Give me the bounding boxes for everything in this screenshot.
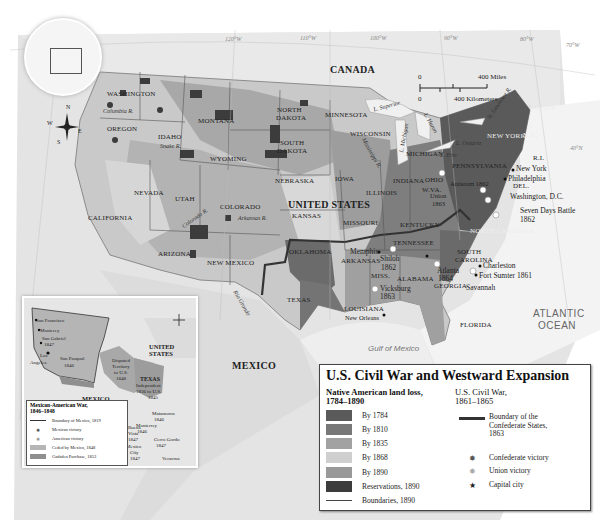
scale-miles-label: 400 Miles [478,74,506,81]
state-label: ARKANSAS [341,258,380,265]
inset-region-label: Independent [136,383,161,388]
color-swatch [326,452,352,463]
color-swatch [326,481,352,492]
state-label: NORTH [277,107,302,114]
city-label: New York [516,165,546,173]
city-label: 1863 [432,201,445,208]
globe-locator [24,18,102,96]
scale-miles-zero: 0 [418,74,422,81]
state-label: WYOMING [210,156,247,163]
legend-title: U.S. Civil War and Westward Expansion [326,368,569,384]
civil-war-heading: U.S. Civil War, 1861–1865 [455,388,507,406]
legend-item-confederate-victory: ✸ Confederate victory [455,454,549,463]
inset-city-label: Veracruz [162,456,180,461]
city-label: Shiloh [380,255,400,263]
inset-region-label: 1845 [148,395,158,400]
inset-city-label: 1846 [64,363,74,368]
city-label: Philadelphia [508,175,546,183]
compass-e: E [78,128,82,134]
city-label: Washington, D.C. [510,193,564,201]
inset-map-mexican-american-war: San Francisco Monterey San Gabriel 1847 … [22,296,198,468]
state-label: KENTUCKY [400,222,440,229]
country-label-mexico: MEXICO [232,361,276,371]
state-label: ALABAMA [397,276,434,283]
legend-label: Capital city [489,481,524,490]
legend-item-capital-city: ★ Capital city [455,481,524,490]
inset-legend: Mexican-American War, 1846–1848 Boundary… [26,400,128,466]
state-label: OKLAHOMA [289,249,331,256]
graticule-label: 40°N [570,145,582,151]
river-label: Arkansas R. [238,215,267,221]
inset-city-label: Mexico [126,444,141,449]
city-label: 1864 [438,275,453,283]
city-label: 1862 [381,264,396,272]
legend-item-land-loss: By 1868 [326,452,388,464]
boundary-line-icon [30,420,46,421]
inset-legend-label: Mexican victory [52,427,82,432]
state-label: UTAH [175,196,195,203]
inset-city-label: San Francisco [36,318,64,323]
state-label: NEW MEXICO [207,260,254,267]
inset-city-label: San Pasqual [60,356,84,361]
city-label: New Orleans [345,315,379,322]
compass-n: N [66,104,70,110]
american-victory-icon: ✸ [30,436,46,441]
legend-item-land-loss: Reservations, 1890 [326,481,420,493]
compass-s: S [57,139,60,145]
legend-item-confederate-boundary: Boundary of the Confederate States, 1863 [455,413,547,439]
graticule-label: 70°W [566,42,579,48]
legend-item-union-victory: ✸ Union victory [455,467,531,476]
inset-region-label: 1848 [116,376,126,381]
mexican-victory-icon: ✸ [30,427,46,432]
legend-item-land-loss: By 1784 [326,409,388,421]
state-label: LOUISIANA [344,306,384,313]
state-label: TENNESSEE [393,240,434,247]
inset-region-label: TEXAS [140,376,160,382]
graticule-label: 120°W [225,36,241,42]
state-label: FLORIDA [460,322,492,329]
compass-w: W [47,120,53,126]
legend-label-line: 1863 [489,430,547,439]
legend-label: By 1835 [362,439,388,448]
state-label: IOWA [335,176,354,183]
city-label: Charleston [483,262,516,270]
state-label: N.H. [523,132,537,139]
color-swatch [326,438,352,449]
legend-label: Boundary of the Confederate States, 1863 [489,413,547,439]
union-victory-icon: ✸ [455,467,489,476]
inset-legend-item: Boundary of Mexico, 1819 [30,418,101,423]
inset-legend-label: Boundary of Mexico, 1819 [52,418,101,423]
legend-item-land-loss: By 1810 [326,423,388,435]
ocean-label-1: ATLANTIC [533,309,585,319]
state-label: COLORADO [220,204,261,211]
state-label: MICHIGAN [406,151,443,158]
city-label: 1863 [380,293,395,301]
river-label: Columbia R. [103,108,133,114]
inset-city-label: Angeles [30,360,46,365]
inset-city-label: Monterey [40,328,59,333]
inset-legend-label: Ceded by Mexico, 1848 [52,445,95,450]
legend-label: Reservations, 1890 [362,482,420,491]
inset-region-label: to U.S. [114,370,128,375]
river-label: Snake R. [160,143,181,149]
inset-legend-item: Ceded by Mexico, 1848 [30,445,95,450]
state-label: KANSAS [292,213,321,220]
state-label: IDAHO [158,134,182,141]
inset-city-label: San Gabriel [42,336,66,341]
inset-city-label: Los [40,353,48,358]
color-swatch [326,410,352,421]
land-loss-heading: Native American land loss, 1784–1890 [326,388,423,406]
state-label: MINNESOTA [325,112,367,119]
inset-legend-label: American victory [52,436,84,441]
state-label: ILLINOIS [366,190,397,197]
state-label: NORTH CAROLINA [470,228,534,235]
state-label: MISSOURI [343,220,378,227]
state-label: NEBRASKA [275,178,314,185]
inset-city-label: 1847 [44,342,54,347]
color-swatch [326,467,352,478]
legend-label: Union victory [489,467,531,476]
lake-label: L. Erie [440,152,457,158]
inset-legend-title-line2: 1846–1848 [30,409,88,415]
map-legend: U.S. Civil War and Westward Expansion Na… [319,364,591,511]
state-label: DAKOTA [276,115,306,122]
